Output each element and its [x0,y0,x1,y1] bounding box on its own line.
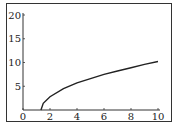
x-tick-label: 4 [74,111,80,122]
x-tick-label: 8 [128,111,134,122]
x-tick-label: 10 [152,111,165,122]
series-line [41,62,158,110]
y-tick-label: 15 [8,33,21,44]
x-tick-label: 0 [20,111,26,122]
y-tick-label: 20 [8,10,21,21]
x-tick-label: 2 [47,111,53,122]
chart: 02468105101520 [0,0,175,127]
x-tick-label: 6 [101,111,107,122]
y-tick-label: 10 [8,57,21,68]
y-tick-label: 5 [15,81,21,92]
